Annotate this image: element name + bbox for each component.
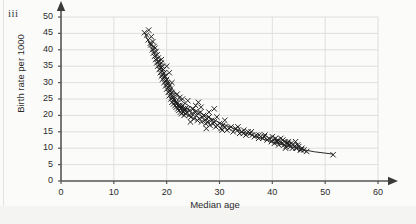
scatter-chart: Birth rate per 1000 Median age 051015202… <box>0 0 416 224</box>
y-axis-arrow <box>57 1 65 11</box>
y-tick-label-8: 40 <box>33 44 53 54</box>
data-point <box>196 100 201 105</box>
x-tick-label-6: 60 <box>368 187 388 197</box>
x-tick-label-2: 20 <box>157 187 177 197</box>
data-point <box>199 105 204 110</box>
x-tick-label-5: 50 <box>315 187 335 197</box>
data-point <box>188 120 193 125</box>
data-point <box>212 106 217 111</box>
data-point <box>236 124 241 129</box>
data-point <box>204 126 209 131</box>
y-tick-label-7: 35 <box>33 60 53 70</box>
y-tick-label-0: 0 <box>33 175 53 185</box>
axes <box>57 1 398 185</box>
y-tick-label-10: 50 <box>33 11 53 21</box>
y-tick-label-2: 10 <box>33 142 53 152</box>
x-axis-arrow <box>388 177 398 185</box>
y-tick-label-4: 20 <box>33 109 53 119</box>
data-points <box>142 28 335 157</box>
y-axis-title: Birth rate per 1000 <box>15 4 26 144</box>
y-tick-label-1: 5 <box>33 159 53 169</box>
x-tick-label-0: 0 <box>51 187 71 197</box>
x-tick-label-3: 30 <box>210 187 230 197</box>
data-point <box>331 152 336 157</box>
x-tick-label-1: 10 <box>104 187 124 197</box>
y-tick-label-5: 25 <box>33 93 53 103</box>
y-tick-label-9: 45 <box>33 27 53 37</box>
data-point <box>207 110 212 115</box>
data-point <box>149 34 154 39</box>
data-point <box>167 70 172 75</box>
y-tick-label-3: 15 <box>33 126 53 136</box>
gridlines <box>61 17 378 181</box>
data-point <box>222 118 227 123</box>
x-axis-title: Median age <box>160 199 270 210</box>
y-tick-label-6: 30 <box>33 77 53 87</box>
x-tick-label-4: 40 <box>262 187 282 197</box>
